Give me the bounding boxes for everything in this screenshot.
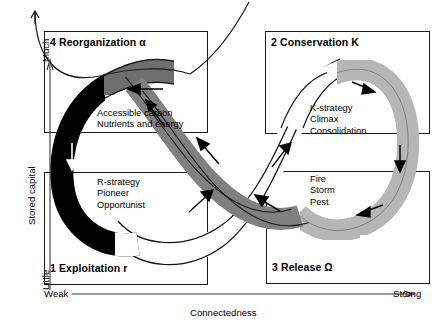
adaptive-cycle-loop bbox=[0, 0, 440, 325]
y-axis-high-label: Much bbox=[40, 39, 51, 62]
quadrant-label-release: 3 Release Ω bbox=[272, 261, 333, 273]
quadrant-label-reorganization: 4 Reorganization α bbox=[50, 36, 146, 48]
quadrant-label-conservation: 2 Conservation K bbox=[271, 36, 359, 48]
x-axis-low-text: Weak bbox=[44, 288, 68, 299]
note-line: Accessible carbon bbox=[97, 108, 183, 119]
notes-exploitation: R-strategy Pioneer Opportunist bbox=[97, 177, 145, 211]
flow-arrow-exploitation-to-conservation bbox=[189, 190, 213, 212]
note-line: Pioneer bbox=[97, 188, 145, 199]
x-axis-low-label: Weak bbox=[44, 288, 68, 299]
x-axis-high-text: Strong bbox=[393, 288, 421, 299]
note-line: R-strategy bbox=[97, 177, 145, 188]
flow-arrow-conservation-right bbox=[352, 82, 375, 94]
notes-release: Fire Storm Pest bbox=[310, 174, 335, 208]
note-line: Consolidation bbox=[310, 126, 366, 137]
y-axis-high-text: Much bbox=[40, 39, 51, 62]
x-axis-title: Connectedness bbox=[190, 307, 257, 318]
y-axis-title-text: Stored capital bbox=[26, 166, 37, 225]
x-axis-title-text: Connectedness bbox=[190, 307, 257, 318]
note-line: Pest bbox=[310, 197, 335, 208]
notes-reorganization: Accessible carbon Nutrients and energy bbox=[97, 108, 183, 131]
quadrant-label-exploitation: 1 Exploitation r bbox=[50, 262, 127, 274]
note-line: K-strategy bbox=[310, 103, 366, 114]
notes-conservation: K-strategy Climax Consolidation bbox=[310, 103, 366, 137]
quadrant-label-conservation-text: 2 Conservation K bbox=[271, 36, 359, 48]
band-segment-exploitation-black bbox=[62, 71, 186, 245]
note-line: Climax bbox=[310, 114, 366, 125]
adaptive-cycle-figure: 4 Reorganization α 2 Conservation K 1 Ex… bbox=[0, 0, 440, 325]
y-axis-low-text: Little bbox=[40, 270, 51, 290]
y-axis-title: Stored capital bbox=[26, 166, 37, 225]
quadrant-label-release-text: 3 Release Ω bbox=[272, 261, 333, 273]
curve-left-arrowhead bbox=[31, 11, 39, 24]
note-line: Opportunist bbox=[97, 200, 145, 211]
note-line: Fire bbox=[310, 174, 335, 185]
y-axis-low-label: Little bbox=[40, 270, 51, 290]
curve-right-up bbox=[190, 2, 249, 74]
quadrant-label-exploitation-text: 1 Exploitation r bbox=[50, 262, 127, 274]
quadrant-label-reorganization-text: 4 Reorganization α bbox=[50, 36, 146, 48]
note-line: Storm bbox=[310, 185, 335, 196]
x-axis-high-label: Strong bbox=[393, 288, 421, 299]
note-line: Nutrients and energy bbox=[97, 119, 183, 130]
